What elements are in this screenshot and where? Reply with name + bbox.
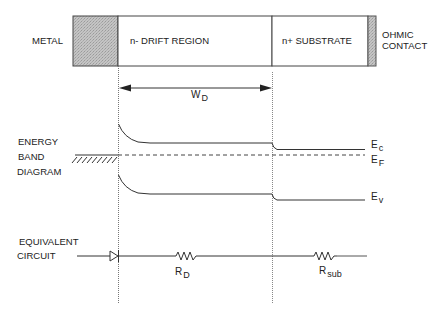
depletion-width-label: WD: [191, 89, 208, 100]
valence-band-edge: [119, 175, 366, 200]
wd-subscript: D: [201, 93, 208, 103]
ec-label: Ec: [371, 139, 383, 150]
metal-block: [73, 16, 118, 66]
rd-subscript: D: [183, 270, 190, 280]
ec-subscript: c: [379, 143, 384, 153]
drift-region-label: n- DRIFT REGION: [130, 35, 209, 46]
ground-hatch-icon: [72, 157, 117, 163]
ef-label: EF: [371, 154, 384, 165]
ev-subscript: v: [379, 195, 384, 205]
rsub-label: Rsub: [319, 265, 342, 276]
ohmic-contact-label-line2: CONTACT: [382, 40, 427, 52]
metal-label: METAL: [32, 35, 63, 46]
energy-band-title-line3: DIAGRAM: [17, 166, 61, 178]
energy-band-title-line2: BAND: [18, 151, 44, 163]
equivalent-circuit-title-line1: EQUIVALENT: [19, 236, 78, 248]
rd-label: RD: [175, 266, 190, 277]
ev-symbol: E: [371, 191, 378, 202]
rsub-symbol: R: [319, 265, 326, 276]
rsub-subscript: sub: [327, 269, 342, 279]
ef-symbol: E: [371, 154, 378, 165]
rd-symbol: R: [175, 266, 182, 277]
resistor-rsub-icon: [314, 252, 337, 260]
conduction-band-edge: [119, 124, 366, 150]
ohmic-contact-block: [368, 16, 376, 66]
energy-band-title-line1: ENERGY: [18, 136, 58, 148]
ef-subscript: F: [379, 158, 385, 168]
resistor-rd-icon: [176, 252, 199, 260]
wd-symbol: W: [191, 89, 200, 100]
substrate-label: n+ SUBSTRATE: [282, 35, 352, 46]
arrow-head-left-icon: [119, 85, 131, 92]
arrow-head-right-icon: [260, 85, 272, 92]
ec-symbol: E: [371, 139, 378, 150]
ev-label: Ev: [371, 191, 383, 202]
diode-icon: [110, 250, 119, 262]
equivalent-circuit-title-line2: CIRCUIT: [17, 250, 56, 262]
